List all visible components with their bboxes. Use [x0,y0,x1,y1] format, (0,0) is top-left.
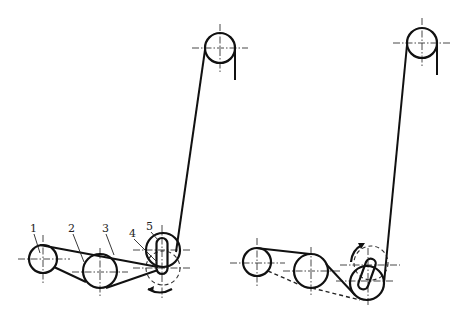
label-5: 5 [146,220,153,233]
label-3: 3 [102,222,109,235]
tensioner-right [336,246,400,305]
pulley-a [230,238,285,287]
top-pulley-left [192,24,248,80]
figure: 1 2 3 4 5 [0,0,465,317]
tensioner-pulley-5 [133,225,190,300]
label-2: 2 [68,222,75,235]
belt-right [256,45,407,300]
right-diagram [230,18,450,305]
pulley-b [283,247,340,297]
left-diagram: 1 2 3 4 5 [18,24,248,300]
top-pulley-right [393,18,450,75]
label-4: 4 [129,227,136,240]
adjustment-slot [357,257,377,290]
label-1: 1 [30,222,37,235]
pulley-1 [18,235,70,284]
belt-drive-diagram: 1 2 3 4 5 [0,0,465,317]
